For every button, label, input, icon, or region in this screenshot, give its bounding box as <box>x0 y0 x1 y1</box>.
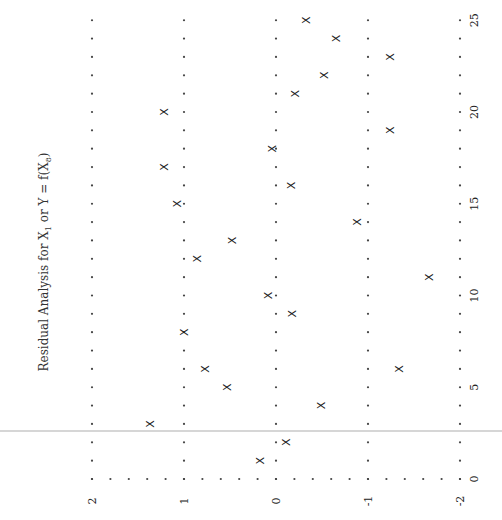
x-marker: X <box>266 144 279 152</box>
grid-dot <box>275 294 277 296</box>
grid-dot <box>367 166 369 168</box>
x-marker: X <box>384 53 397 61</box>
x-marker: X <box>351 218 364 226</box>
grid-dot <box>183 184 185 186</box>
grid-dot <box>183 148 185 150</box>
grid-dot <box>91 203 93 205</box>
grid-dot <box>459 405 461 407</box>
grid-dot <box>312 478 314 480</box>
x-marker: X <box>315 401 328 409</box>
grid-dot <box>367 203 369 205</box>
grid-dot <box>367 423 369 425</box>
x-tick-label: 25 <box>468 13 481 27</box>
x-marker: X <box>289 89 302 97</box>
grid-dot <box>367 460 369 462</box>
x-axis-ticks: 0510152025 <box>468 13 481 482</box>
x-tick-label: 20 <box>468 105 481 119</box>
grid-dot <box>459 313 461 315</box>
grid-dot <box>275 166 277 168</box>
grid-dot <box>183 19 185 21</box>
grid-dot <box>367 221 369 223</box>
grid-dot <box>459 239 461 241</box>
grid-dot <box>183 111 185 113</box>
grid-dot <box>183 276 185 278</box>
grid-dot <box>367 239 369 241</box>
grid-dot <box>441 478 443 480</box>
grid-dot <box>459 349 461 351</box>
grid-dot <box>459 19 461 21</box>
grid-dot <box>91 74 93 76</box>
grid-dot <box>238 478 240 480</box>
y-tick-label: 1 <box>178 498 191 505</box>
grid-dot <box>275 93 277 95</box>
grid-dot <box>459 184 461 186</box>
grid-dot <box>183 258 185 260</box>
grid-dot <box>183 349 185 351</box>
grid-dot <box>275 478 277 480</box>
grid-dot <box>459 368 461 370</box>
x-tick-label: 10 <box>468 289 481 303</box>
grid-dot <box>91 111 93 113</box>
x-marker: X <box>171 200 184 208</box>
grid-dot <box>183 38 185 40</box>
grid-dot <box>275 368 277 370</box>
grid-dot <box>275 239 277 241</box>
grid-dot <box>330 478 332 480</box>
grid-dot <box>91 166 93 168</box>
grid-dot <box>91 460 93 462</box>
grid-dot <box>459 276 461 278</box>
grid-dot <box>367 405 369 407</box>
y-tick-label: -2 <box>454 496 467 507</box>
y-tick-label: -1 <box>362 496 375 507</box>
grid-dot <box>367 74 369 76</box>
x-marker: X <box>286 310 299 318</box>
grid-dot <box>367 93 369 95</box>
grid-dot <box>367 148 369 150</box>
grid-dot <box>183 441 185 443</box>
grid-dot <box>275 56 277 58</box>
grid-dot <box>275 441 277 443</box>
grid-dot <box>183 313 185 315</box>
grid-dot <box>91 184 93 186</box>
grid-dot <box>367 313 369 315</box>
grid-dot <box>183 129 185 131</box>
grid-dot <box>109 478 111 480</box>
grid-dot <box>275 184 277 186</box>
grid-dot <box>367 368 369 370</box>
grid-dot <box>183 239 185 241</box>
grid-dot <box>183 56 185 58</box>
grid-dot <box>275 74 277 76</box>
x-marker: X <box>199 365 212 373</box>
grid-dot <box>459 56 461 58</box>
grid-dot <box>91 294 93 296</box>
grid-dot <box>367 258 369 260</box>
grid-dot <box>201 478 203 480</box>
grid-dot <box>91 239 93 241</box>
grid-dot <box>91 478 93 480</box>
x-tick-label: 0 <box>468 476 481 483</box>
grid-dot <box>275 276 277 278</box>
grid-dot <box>275 423 277 425</box>
grid-dot <box>385 478 387 480</box>
grid-dot <box>91 93 93 95</box>
grid-dot <box>91 129 93 131</box>
grid-dot <box>183 74 185 76</box>
x-marker: X <box>280 438 293 446</box>
grid-dot <box>459 148 461 150</box>
grid-dot <box>91 19 93 21</box>
y-axis-ticks: 210-1-2 <box>86 496 467 507</box>
grid-dot <box>183 294 185 296</box>
grid-dot <box>183 405 185 407</box>
grid-dot <box>91 349 93 351</box>
grid-dot <box>91 56 93 58</box>
grid-dot <box>459 294 461 296</box>
grid-dot <box>459 258 461 260</box>
grid-dot <box>91 313 93 315</box>
x-marker: X <box>158 108 171 116</box>
x-marker: X <box>300 16 313 24</box>
grid-dot <box>275 129 277 131</box>
grid-dot <box>459 111 461 113</box>
x-marker: X <box>144 420 157 428</box>
grid-dot <box>275 331 277 333</box>
grid-dot <box>367 276 369 278</box>
